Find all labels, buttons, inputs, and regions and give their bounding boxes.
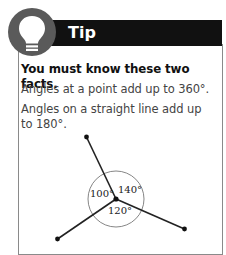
angle-label-120: 120° <box>108 205 132 216</box>
endpoint-down-left <box>55 237 60 242</box>
endpoint-down-right <box>182 227 187 232</box>
angle-label-100: 100° <box>90 188 114 199</box>
endpoint-up-left <box>84 135 89 140</box>
angle-label-140: 140° <box>118 184 142 195</box>
center-point <box>113 196 118 201</box>
